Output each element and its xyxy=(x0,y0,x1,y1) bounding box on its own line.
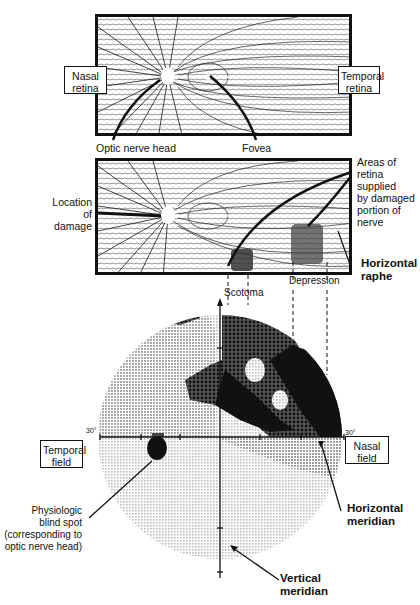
temporal-field-box: Temporal field xyxy=(40,440,83,468)
physiologic-blind-spot-label: Physiologic blind spot (corresponding to… xyxy=(0,505,82,553)
nasal-field-box: Nasal field xyxy=(345,436,389,464)
scotoma-label: Scotoma xyxy=(224,287,263,299)
right-30-degree-label: 30° xyxy=(345,429,356,436)
depression-label: Depression xyxy=(289,275,340,287)
horizontal-meridian-label: Horizontal meridian xyxy=(347,502,403,528)
vertical-meridian-label: Vertical meridian xyxy=(280,572,328,598)
left-30-degree-label: 30° xyxy=(86,427,97,434)
blind-spot xyxy=(147,436,167,460)
